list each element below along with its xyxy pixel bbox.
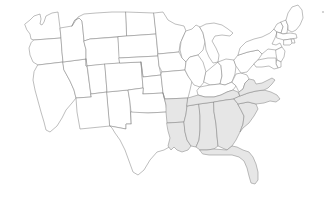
state-arizona[interactable]: Arizona: [76, 92, 110, 129]
state-michigan[interactable]: Michigan: [200, 23, 233, 63]
state-maine[interactable]: Maine: [286, 5, 303, 32]
state-colorado[interactable]: Colorado: [105, 62, 143, 92]
state-connecticut[interactable]: Connecticut: [284, 39, 292, 45]
state-new-york[interactable]: New York: [238, 29, 282, 55]
us-map-svg: Washington Oregon California Nevada Idah…: [0, 0, 329, 203]
us-map-container: Washington Oregon California Nevada Idah…: [0, 0, 329, 203]
state-north-dakota[interactable]: North Dakota: [126, 12, 156, 36]
state-washington[interactable]: Washington: [25, 12, 61, 40]
state-south-dakota[interactable]: South Dakota: [118, 34, 158, 58]
state-new-jersey[interactable]: New Jersey: [276, 47, 285, 62]
state-new-mexico[interactable]: New Mexico: [107, 90, 131, 129]
state-oregon[interactable]: Oregon: [29, 38, 63, 65]
image-artifact-dot: [322, 11, 324, 13]
state-florida[interactable]: Florida: [200, 146, 258, 184]
state-indiana[interactable]: Indiana: [204, 62, 222, 85]
state-wyoming[interactable]: Wyoming: [84, 37, 120, 66]
